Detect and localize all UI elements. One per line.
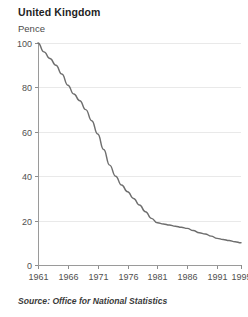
y-axis-tick-label: 60: [22, 128, 32, 138]
x-axis-tick-label: 1961: [28, 272, 48, 282]
x-axis-tick-label: 1995: [231, 272, 248, 282]
x-axis-tick-label: 1966: [58, 272, 78, 282]
x-axis-tick-label: 1986: [177, 272, 197, 282]
y-axis-tick-label: 100: [17, 39, 32, 49]
data-series-line: [38, 43, 241, 243]
chart-figure: United Kingdom Pence 020406080100 196119…: [0, 0, 248, 317]
y-axis-tick-label: 40: [22, 172, 32, 182]
x-axis-tick-label: 1976: [118, 272, 138, 282]
x-axis-tick-label: 1971: [88, 272, 108, 282]
x-axis-tick-labels: 19611966197119761981198619911995: [28, 272, 248, 282]
y-axis-tick-label: 20: [22, 217, 32, 227]
x-axis-tick-label: 1981: [147, 272, 167, 282]
y-axis-tick-label: 80: [22, 83, 32, 93]
gridlines: [38, 44, 241, 222]
source-note: Source: Office for National Statistics: [18, 296, 167, 306]
y-axis-tick-marks: [35, 44, 38, 266]
x-axis-tick-label: 1991: [207, 272, 227, 282]
y-axis-tick-labels: 020406080100: [17, 39, 32, 271]
y-axis-tick-label: 0: [27, 261, 32, 271]
line-chart-plot: 020406080100 196119661971197619811986199…: [0, 0, 248, 317]
